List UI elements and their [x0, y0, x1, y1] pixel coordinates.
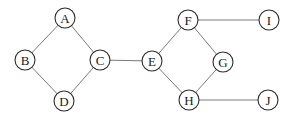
- node-layer: ABCDEFGHIJ: [15, 8, 279, 111]
- graph-node-f[interactable]: F: [178, 10, 198, 30]
- graph-node-d[interactable]: D: [54, 91, 74, 111]
- graph-node-label-g: G: [218, 55, 227, 70]
- graph-node-i[interactable]: I: [259, 10, 279, 30]
- graph-edge-a-c: [71, 26, 93, 53]
- graph-edge-e-f: [159, 28, 182, 54]
- graph-node-j[interactable]: J: [258, 90, 278, 110]
- graph-node-b[interactable]: B: [15, 50, 35, 70]
- graph-node-label-j: J: [265, 93, 270, 108]
- graph-node-e[interactable]: E: [142, 51, 162, 71]
- graph-svg: ABCDEFGHIJ: [0, 0, 293, 118]
- graph-edge-b-d: [32, 67, 57, 94]
- graph-node-h[interactable]: H: [179, 90, 199, 110]
- graph-node-label-b: B: [21, 53, 30, 68]
- graph-node-c[interactable]: C: [90, 50, 110, 70]
- graph-node-label-h: H: [184, 93, 193, 108]
- graph-node-label-i: I: [267, 13, 271, 28]
- graph-edge-c-d: [71, 68, 94, 94]
- graph-node-label-e: E: [148, 54, 156, 69]
- graph-node-label-c: C: [96, 53, 105, 68]
- graph-node-a[interactable]: A: [55, 8, 75, 28]
- graph-edge-a-b: [32, 25, 58, 53]
- graph-edge-e-h: [159, 68, 182, 93]
- graph-node-label-d: D: [59, 94, 68, 109]
- graph-edge-g-h: [196, 69, 217, 92]
- graph-node-g[interactable]: G: [213, 52, 233, 72]
- graph-node-label-f: F: [184, 13, 191, 28]
- graph-diagram-canvas: ABCDEFGHIJ: [0, 0, 293, 118]
- graph-edge-c-e: [110, 60, 142, 61]
- graph-edge-f-g: [194, 28, 216, 55]
- graph-node-label-a: A: [60, 11, 70, 26]
